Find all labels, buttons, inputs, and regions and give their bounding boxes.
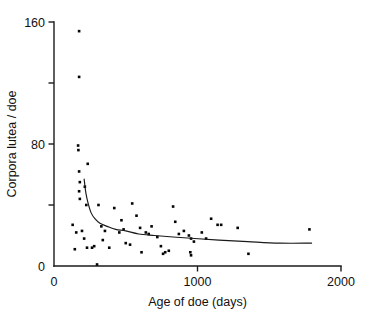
data-point (75, 231, 78, 234)
data-point (168, 249, 171, 252)
data-point (150, 225, 153, 228)
data-point (86, 163, 89, 166)
data-point (220, 224, 223, 227)
data-point (120, 219, 123, 222)
data-point (78, 190, 81, 193)
data-point (189, 251, 192, 254)
data-point (164, 251, 167, 254)
data-point (78, 30, 81, 33)
data-point (135, 214, 138, 217)
data-point (160, 245, 163, 248)
data-point (190, 254, 193, 257)
y-tick-label-80: 80 (31, 138, 45, 152)
data-point (139, 227, 142, 230)
x-axis-title: Age of doe (days) (148, 295, 247, 309)
data-point (97, 204, 100, 207)
data-point (308, 228, 311, 231)
data-point (93, 245, 96, 248)
x-tick-label-1000: 1000 (184, 275, 212, 289)
data-point (78, 76, 81, 79)
data-point (124, 242, 127, 245)
data-point (113, 207, 116, 210)
data-point (140, 251, 143, 254)
data-point (101, 239, 104, 242)
data-point (71, 224, 74, 227)
data-point (81, 230, 84, 233)
data-point (236, 227, 239, 230)
data-point (174, 220, 177, 223)
data-point (79, 181, 82, 184)
data-point (193, 240, 196, 243)
data-point (145, 231, 148, 234)
scatter-plot-figure: 080160 010002000 Corpora lutea / doe Age… (0, 0, 370, 313)
data-point (96, 263, 99, 266)
data-point (104, 230, 107, 233)
data-point (216, 224, 219, 227)
data-point (131, 202, 134, 205)
data-point (172, 205, 175, 208)
data-point (77, 149, 80, 152)
data-point (183, 230, 186, 233)
data-point (129, 243, 132, 246)
data-point (83, 237, 86, 240)
data-point (118, 231, 121, 234)
data-point (210, 217, 213, 220)
data-point (178, 233, 181, 236)
data-point (188, 234, 191, 237)
y-tick-label-0: 0 (38, 260, 45, 274)
data-point (77, 144, 80, 147)
data-point (79, 198, 82, 201)
data-point (74, 248, 77, 251)
x-tick-label-0: 0 (51, 275, 58, 289)
data-point (100, 225, 103, 228)
data-point (78, 170, 81, 173)
data-point (108, 246, 111, 249)
data-point (85, 204, 88, 207)
y-tick-label-160: 160 (24, 16, 45, 30)
data-point (86, 246, 89, 249)
x-tick-label-2000: 2000 (327, 275, 355, 289)
data-point (201, 231, 204, 234)
data-point (247, 253, 250, 256)
y-axis-title: Corpora lutea / doe (5, 90, 19, 197)
